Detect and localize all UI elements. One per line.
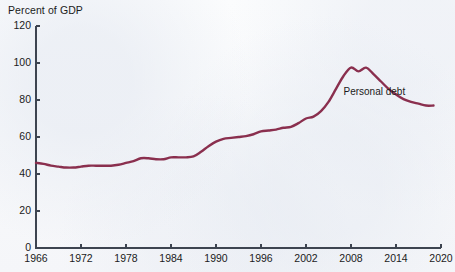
x-tick-label: 2020	[421, 252, 455, 264]
x-tick-label: 2008	[331, 252, 371, 264]
x-tick-label: 2002	[286, 252, 326, 264]
x-tick-label: 1978	[106, 252, 146, 264]
x-tick-label: 1996	[241, 252, 281, 264]
series-lines	[36, 68, 434, 168]
x-tick-label: 1966	[16, 252, 56, 264]
y-tick-label: 80	[5, 93, 31, 105]
y-tick-label: 60	[5, 130, 31, 142]
personal-debt-chart: Percent of GDP 020406080100120 196619721…	[0, 0, 455, 272]
x-tick-label: 2014	[376, 252, 416, 264]
chart-canvas	[0, 0, 455, 272]
x-tick-label: 1990	[196, 252, 236, 264]
y-tick-label: 40	[5, 167, 31, 179]
y-tick-label: 100	[5, 56, 31, 68]
y-tick-label: 120	[5, 19, 31, 31]
x-tick-label: 1984	[151, 252, 191, 264]
series-label-personal-debt: Personal debt	[344, 86, 406, 97]
y-tick-label: 20	[5, 204, 31, 216]
x-tick-label: 1972	[61, 252, 101, 264]
